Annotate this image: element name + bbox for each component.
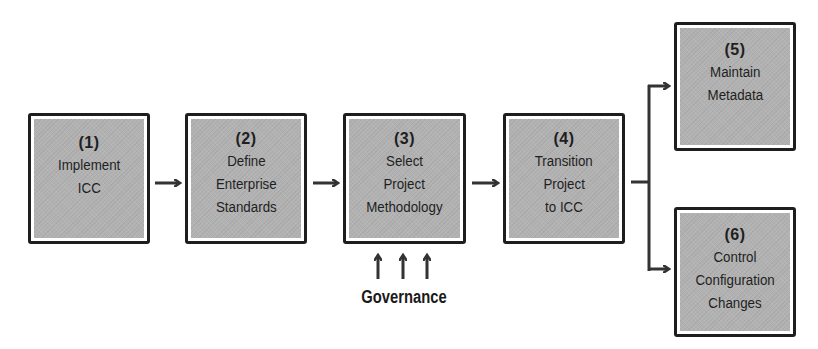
step-number: (6) bbox=[724, 225, 745, 245]
step-number: (1) bbox=[78, 133, 99, 153]
step-number: (3) bbox=[394, 129, 415, 149]
step-label-line: to ICC bbox=[545, 195, 583, 218]
step-label-line: Methodology bbox=[366, 195, 442, 218]
step-label-line: Implement bbox=[58, 153, 120, 176]
step-number: (4) bbox=[553, 129, 574, 149]
step-label-line: Control bbox=[714, 245, 757, 268]
step-box-4: (4) Transition Project to ICC bbox=[503, 113, 625, 244]
step-box-6: (6) Control Configuration Changes bbox=[674, 207, 796, 337]
step-box-2: (2) Define Enterprise Standards bbox=[185, 113, 307, 244]
step-label-line: Changes bbox=[708, 291, 761, 314]
governance-label: Governance bbox=[355, 287, 453, 308]
step-number: (5) bbox=[724, 40, 745, 60]
step-box-3: (3) Select Project Methodology bbox=[343, 113, 466, 244]
step-box-1: (1) Implement ICC bbox=[28, 113, 150, 244]
step-label-line: Configuration bbox=[695, 268, 774, 291]
step-label-line: ICC bbox=[78, 176, 101, 199]
step-label-line: Transition bbox=[535, 149, 593, 172]
step-label-line: Project bbox=[384, 172, 425, 195]
step-label-line: Standards bbox=[216, 195, 277, 218]
step-label-line: Maintain bbox=[710, 60, 760, 83]
icc-process-diagram: (1) Implement ICC (2) Define Enterprise … bbox=[0, 0, 818, 349]
step-label-line: Metadata bbox=[707, 83, 763, 106]
step-label-line: Project bbox=[543, 172, 584, 195]
step-label-line: Define bbox=[227, 149, 266, 172]
step-number: (2) bbox=[235, 129, 256, 149]
step-label-line: Enterprise bbox=[216, 172, 277, 195]
step-box-5: (5) Maintain Metadata bbox=[674, 22, 796, 151]
step-label-line: Select bbox=[386, 149, 423, 172]
